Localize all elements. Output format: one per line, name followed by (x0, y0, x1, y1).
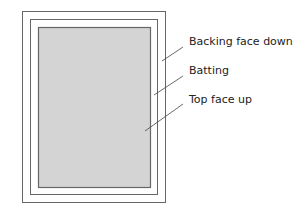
top-layer (39, 28, 151, 188)
top-label: Top face up (189, 94, 252, 106)
backing-label: Backing face down (189, 36, 293, 48)
quilt-layers-diagram: Backing face down Batting Top face up (0, 0, 297, 219)
batting-label: Batting (189, 65, 229, 77)
diagram-canvas (0, 0, 297, 219)
